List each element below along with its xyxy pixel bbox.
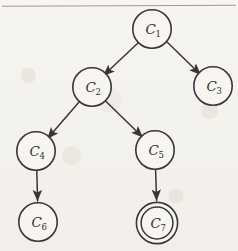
node-c3-subscript: 3: [217, 86, 222, 96]
node-c6[interactable]: C 6: [19, 203, 57, 241]
node-c2[interactable]: C 2: [73, 68, 111, 106]
edge-c4-c6: [37, 171, 38, 202]
node-c5[interactable]: C 5: [136, 131, 174, 169]
edge-c2-c4: [48, 102, 80, 139]
node-c6-subscript: 6: [42, 222, 47, 232]
edge-c1-c2: [104, 43, 139, 76]
node-group: C 1 C 2 C 3 C 4: [17, 10, 232, 244]
node-c4-subscript: 4: [40, 151, 45, 161]
node-c1[interactable]: C 1: [133, 10, 171, 48]
edge-group: [37, 42, 201, 202]
tree-diagram: C 1 C 2 C 3 C 4: [0, 0, 238, 251]
node-c7-subscript: 7: [161, 223, 166, 233]
figure-container: C 1 C 2 C 3 C 4: [0, 0, 238, 251]
edge-c2-c5: [106, 101, 143, 137]
edge-c5-c7: [156, 170, 157, 201]
node-c5-subscript: 5: [159, 150, 164, 160]
node-c7[interactable]: C 7: [136, 202, 177, 243]
node-c1-subscript: 1: [156, 29, 161, 39]
node-c2-subscript: 2: [96, 87, 101, 97]
node-c3[interactable]: C 3: [194, 67, 232, 105]
node-c4[interactable]: C 4: [17, 132, 55, 170]
page-rule-artifact: [2, 5, 236, 6]
edge-c1-c3: [167, 42, 201, 75]
